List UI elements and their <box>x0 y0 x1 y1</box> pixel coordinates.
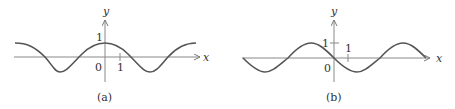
panel-a: y x 1 0 1 (a) <box>14 5 210 104</box>
y-axis-label: y <box>330 5 338 18</box>
figure: y x 1 0 1 (a) y x 1 0 1 (b) <box>0 0 455 109</box>
panel-b: y x 1 0 1 (b) <box>242 5 443 104</box>
x-axis-label: x <box>203 51 210 64</box>
origin-label: 0 <box>324 62 331 75</box>
x-axis-label: x <box>436 52 443 65</box>
caption-a: (a) <box>97 91 112 104</box>
y-tick-label: 1 <box>322 37 329 50</box>
y-axis-label: y <box>102 5 110 18</box>
caption-b: (b) <box>326 91 342 104</box>
y-tick-label: 1 <box>96 31 103 44</box>
origin-label: 0 <box>95 61 102 74</box>
x-tick-label: 1 <box>117 61 124 74</box>
x-tick-label: 1 <box>345 42 352 55</box>
